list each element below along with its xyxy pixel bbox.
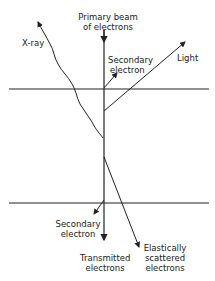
transmitted-electrons-label: Transmitted electrons — [80, 253, 130, 273]
elastic-line1: Elastically — [140, 243, 190, 253]
secondary-electron-bottom-ray — [94, 200, 104, 214]
xray-label: X-ray — [22, 38, 44, 48]
primary-beam-line2: of electrons — [78, 22, 138, 32]
elastic-line2: scattered — [140, 253, 190, 263]
secondary-bottom-line1: Secondary — [54, 219, 102, 229]
elastic-line3: electrons — [140, 263, 190, 273]
primary-beam-label: Primary beam of electrons — [78, 12, 138, 32]
light-label: Light — [177, 53, 198, 63]
primary-beam-line1: Primary beam — [78, 12, 138, 22]
secondary-top-line1: Secondary — [108, 55, 153, 65]
secondary-electron-bottom-label: Secondary electron — [54, 219, 102, 239]
secondary-top-line2: electron — [108, 65, 153, 75]
secondary-electron-top-ray — [104, 73, 117, 88]
elastic-scatter-label: Elastically scattered electrons — [140, 243, 190, 273]
secondary-bottom-line2: electron — [54, 229, 102, 239]
electron-specimen-interaction-diagram: Primary beam of electrons X-ray Secondar… — [0, 0, 215, 281]
elastic-scatter-ray — [104, 157, 139, 247]
transmitted-line2: electrons — [80, 263, 130, 273]
xray-wavy-path — [38, 22, 103, 138]
light-ray — [104, 42, 185, 111]
transmitted-line1: Transmitted — [80, 253, 130, 263]
secondary-electron-top-label: Secondary electron — [108, 55, 153, 75]
